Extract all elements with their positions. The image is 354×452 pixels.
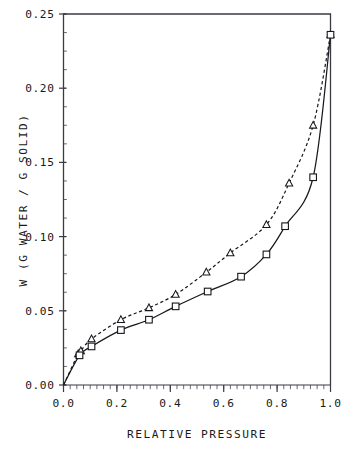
- data-point-square: [263, 251, 270, 258]
- y-tick-label: 0.20: [25, 82, 54, 95]
- y-tick-label: 0.25: [25, 8, 54, 21]
- x-tick-label: 0.6: [213, 397, 235, 410]
- data-point-square: [118, 327, 125, 334]
- x-tick-label: 0.2: [106, 397, 128, 410]
- data-point-square: [76, 352, 83, 359]
- sorption-isotherm-figure: 0.00.20.40.60.81.00.000.050.100.150.200.…: [0, 0, 354, 452]
- data-point-triangle: [286, 179, 293, 186]
- data-point-square: [327, 31, 334, 38]
- data-point-triangle: [172, 291, 179, 298]
- series-markers: [75, 31, 334, 359]
- x-tick-label: 0.0: [52, 397, 74, 410]
- series-line-triangle-series: [64, 35, 331, 385]
- x-axis-title: RELATIVE PRESSURE: [127, 428, 267, 441]
- tick-labels: 0.00.20.40.60.81.00.000.050.100.150.200.…: [25, 8, 341, 410]
- data-point-triangle: [310, 121, 317, 128]
- chart-canvas: 0.00.20.40.60.81.00.000.050.100.150.200.…: [0, 0, 354, 452]
- series-line-square-series: [64, 35, 331, 385]
- y-tick-label: 0.00: [25, 379, 54, 392]
- data-point-triangle: [203, 268, 210, 275]
- data-point-square: [88, 343, 95, 350]
- data-point-square: [146, 316, 153, 323]
- y-tick-label: 0.05: [25, 305, 54, 318]
- data-point-square: [172, 303, 179, 310]
- minor-tick-marks: [64, 14, 331, 389]
- x-tick-label: 0.4: [159, 397, 181, 410]
- data-point-triangle: [117, 316, 124, 323]
- major-tick-marks: [59, 14, 331, 392]
- data-point-triangle: [88, 335, 95, 342]
- data-point-square: [282, 223, 289, 230]
- x-tick-label: 0.8: [266, 397, 288, 410]
- x-tick-label: 1.0: [319, 397, 341, 410]
- axis-frame: [64, 14, 331, 385]
- data-point-triangle: [227, 249, 234, 256]
- data-point-square: [204, 288, 211, 295]
- y-axis-title: W (G WATER / G SOLID): [17, 114, 30, 287]
- data-point-square: [310, 174, 317, 181]
- series-curves: [64, 35, 331, 385]
- data-point-square: [238, 273, 245, 280]
